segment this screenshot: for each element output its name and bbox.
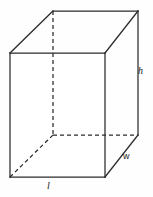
width-label: w [123, 152, 130, 161]
front-face-fill [10, 53, 105, 177]
height-label: h [138, 66, 143, 76]
prism-drawing [0, 0, 153, 197]
rectangular-prism-figure: h w l [0, 0, 153, 197]
length-label: l [47, 181, 50, 191]
